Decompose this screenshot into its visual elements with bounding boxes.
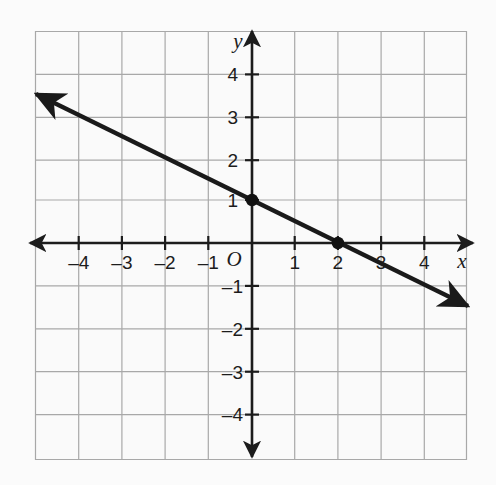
x-tick-label-4: 4	[419, 252, 430, 273]
y-axis-label: y	[231, 29, 243, 53]
x-tick-label-neg1: –1	[198, 252, 219, 273]
y-tick-label-2: 2	[227, 150, 238, 171]
y-tick-label-neg3: –3	[222, 362, 243, 383]
x-tick-label-neg2: –2	[155, 252, 176, 273]
x-tick-label-2: 2	[333, 252, 344, 273]
coordinate-plane-figure: –4 –3 –2 –1 1 2 3 4 4 3 2 1 –1 –2 –3 –4 …	[0, 0, 496, 485]
y-tick-label-neg4: –4	[222, 404, 244, 425]
x-tick-label-neg4: –4	[68, 252, 90, 273]
plotted-point-x-intercept	[332, 237, 344, 249]
x-tick-label-neg3: –3	[111, 252, 132, 273]
plotted-point-y-intercept	[246, 194, 258, 206]
y-tick-label-4: 4	[227, 64, 238, 85]
y-tick-label-neg2: –2	[222, 319, 243, 340]
y-tick-label-neg1: –1	[222, 276, 243, 297]
y-tick-label-3: 3	[227, 107, 238, 128]
origin-label: O	[226, 247, 241, 271]
graph-canvas: –4 –3 –2 –1 1 2 3 4 4 3 2 1 –1 –2 –3 –4 …	[0, 0, 496, 485]
x-axis-label: x	[456, 249, 467, 273]
x-tick-label-1: 1	[289, 252, 300, 273]
